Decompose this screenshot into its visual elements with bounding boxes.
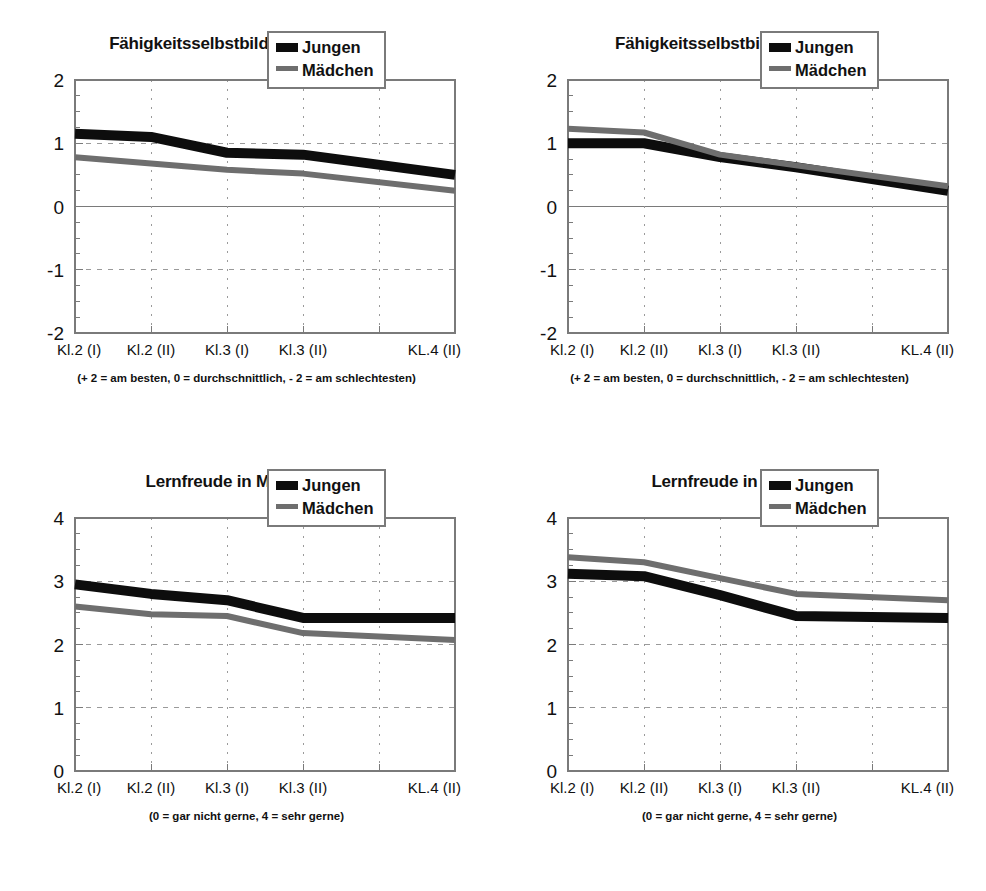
legend-swatch-maedchen [769,66,791,71]
y-axis-tick-label: 4 [53,508,64,529]
legend-label-jungen: Jungen [795,476,854,494]
line-chart-svg: 210-1-2Kl.2 (I)Kl.2 (II)Kl.3 (I)Kl.3 (II… [493,14,986,374]
x-axis-tick-label: Kl.3 (II) [772,341,820,358]
legend-label-maedchen: Mädchen [302,499,374,517]
legend-label-jungen: Jungen [302,38,361,56]
y-axis-tick-label: 1 [53,698,64,719]
x-axis-tick-label: Kl.3 (II) [279,779,327,796]
line-chart-svg: 43210Kl.2 (I)Kl.2 (II)Kl.3 (I)Kl.3 (II)K… [0,452,493,812]
chart-panel-top-left: Fähigkeitsselbstbild in Mathematik 210-1… [0,14,493,444]
x-axis-tick-label: KL.4 (II) [408,341,461,358]
x-axis-tick-label: Kl.3 (II) [279,341,327,358]
figure-grid: Fähigkeitsselbstbild in Mathematik 210-1… [0,0,986,891]
x-axis-tick-label: KL.4 (II) [901,779,954,796]
x-axis-tick-label: Kl.3 (I) [698,341,742,358]
y-axis-tick-label: -1 [540,260,557,281]
legend-swatch-maedchen [769,504,791,509]
y-axis-tick-label: 2 [53,635,64,656]
x-axis-tick-label: Kl.2 (II) [620,341,668,358]
legend-swatch-jungen [769,481,791,490]
y-axis-tick-label: 3 [53,571,64,592]
y-axis-tick-label: 1 [546,133,557,154]
x-axis-tick-label: Kl.2 (I) [550,779,594,796]
y-axis-tick-label: 0 [546,197,557,218]
x-axis-tick-label: Kl.3 (I) [698,779,742,796]
y-axis-tick-label: -1 [47,260,64,281]
x-axis-tick-label: Kl.3 (I) [205,779,249,796]
data-series-maedchen [75,157,455,191]
legend-label-jungen: Jungen [795,38,854,56]
x-axis-tick-label: Kl.3 (II) [772,779,820,796]
legend-swatch-maedchen [276,504,298,509]
chart-panel-top-right: Fähigkeitsselbstbild in Deutsch 210-1-2K… [493,14,986,444]
chart-footnote: (+ 2 = am besten, 0 = durchschnittlich, … [493,372,986,384]
legend-label-jungen: Jungen [302,476,361,494]
x-axis-tick-label: KL.4 (II) [901,341,954,358]
chart-footnote: (0 = gar nicht gerne, 4 = sehr gerne) [493,810,986,822]
x-axis-tick-label: Kl.2 (II) [127,341,175,358]
x-axis-tick-label: KL.4 (II) [408,779,461,796]
y-axis-tick-label: 3 [546,571,557,592]
y-axis-tick-label: 2 [546,70,557,91]
line-chart-svg: 43210Kl.2 (I)Kl.2 (II)Kl.3 (I)Kl.3 (II)K… [493,452,986,812]
chart-panel-bottom-right: Lernfreude in Deutsch 43210Kl.2 (I)Kl.2 … [493,452,986,882]
chart-footnote: (+ 2 = am besten, 0 = durchschnittlich, … [0,372,493,384]
data-series-jungen [568,143,948,190]
legend-label-maedchen: Mädchen [795,61,867,79]
x-axis-tick-label: Kl.2 (II) [127,779,175,796]
legend-swatch-maedchen [276,66,298,71]
y-axis-tick-label: 2 [546,635,557,656]
chart-panel-bottom-left: Lernfreude in Mathematik 43210Kl.2 (I)Kl… [0,452,493,882]
y-axis-tick-label: 4 [546,508,557,529]
data-series-maedchen [568,129,948,187]
legend-label-maedchen: Mädchen [795,499,867,517]
x-axis-tick-label: Kl.2 (I) [57,779,101,796]
chart-footnote: (0 = gar nicht gerne, 4 = sehr gerne) [0,810,493,822]
y-axis-tick-label: 0 [53,197,64,218]
legend-swatch-jungen [276,43,298,52]
x-axis-tick-label: Kl.2 (II) [620,779,668,796]
x-axis-tick-label: Kl.3 (I) [205,341,249,358]
legend-label-maedchen: Mädchen [302,61,374,79]
x-axis-tick-label: Kl.2 (I) [57,341,101,358]
line-chart-svg: 210-1-2Kl.2 (I)Kl.2 (II)Kl.3 (I)Kl.3 (II… [0,14,493,374]
data-series-jungen [75,134,455,175]
y-axis-tick-label: 1 [546,698,557,719]
y-axis-tick-label: 1 [53,133,64,154]
x-axis-tick-label: Kl.2 (I) [550,341,594,358]
y-axis-tick-label: 2 [53,70,64,91]
legend-swatch-jungen [276,481,298,490]
legend-swatch-jungen [769,43,791,52]
